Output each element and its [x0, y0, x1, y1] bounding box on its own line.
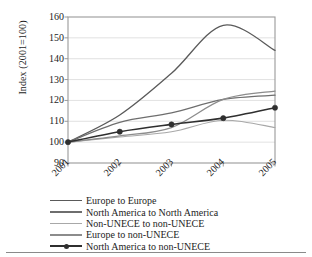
- legend-item[interactable]: Europe to Europe: [50, 195, 306, 206]
- legend-item-label: North America to non-UNECE: [86, 241, 210, 252]
- legend-swatch-icon: [50, 229, 82, 240]
- legend-item[interactable]: North America to non-UNECE: [50, 241, 306, 252]
- legend-item-label: Europe to Europe: [86, 195, 157, 206]
- legend-item[interactable]: North America to North America: [50, 206, 306, 217]
- chart-legend: Europe to EuropeNorth America to North A…: [50, 195, 306, 252]
- x-axis-tick-label: 2002: [102, 157, 123, 178]
- legend-swatch-icon: [50, 218, 82, 229]
- legend-item-label: Europe to non-UNECE: [86, 229, 179, 240]
- x-axis-tick-labels: 20012002200320042005: [0, 0, 312, 196]
- x-axis-tick-label: 2004: [205, 157, 226, 178]
- x-axis-tick-label: 2005: [257, 157, 278, 178]
- chart-plot-region: Index (2001=100) 90100110120130140150160…: [0, 0, 312, 196]
- chart-figure: Index (2001=100) 90100110120130140150160…: [0, 0, 312, 257]
- legend-item[interactable]: Europe to non-UNECE: [50, 229, 306, 240]
- footer-divider: [6, 252, 306, 253]
- x-axis-tick-label: 2001: [50, 157, 71, 178]
- legend-item-label: North America to North America: [86, 207, 218, 218]
- legend-swatch-icon: [50, 207, 82, 218]
- legend-swatch-icon: [50, 195, 82, 206]
- legend-item[interactable]: Non-UNECE to non-UNECE: [50, 218, 306, 229]
- legend-swatch-icon: [50, 241, 82, 252]
- legend-item-label: Non-UNECE to non-UNECE: [86, 218, 204, 229]
- x-axis-tick-label: 2003: [154, 157, 175, 178]
- legend-marker-icon: [64, 244, 69, 249]
